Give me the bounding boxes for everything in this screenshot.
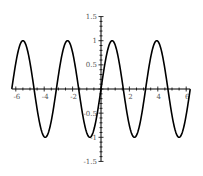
x-tick-label: -4 [42,93,49,101]
x-tick-label: 2 [128,93,132,101]
y-tick-label: 1 [93,37,97,45]
y-tick-label: 0.5 [86,61,97,69]
x-tick-label: -6 [13,93,20,101]
y-tick-label: -1.5 [84,158,98,166]
sine-plot: -6-4-2246-1.5-1-0.50.511.5 [0,0,203,176]
x-tick-label: 4 [157,93,162,101]
y-tick-label: -0.5 [84,110,98,118]
x-tick-label: -2 [70,93,77,101]
y-tick-label: 1.5 [86,13,97,21]
